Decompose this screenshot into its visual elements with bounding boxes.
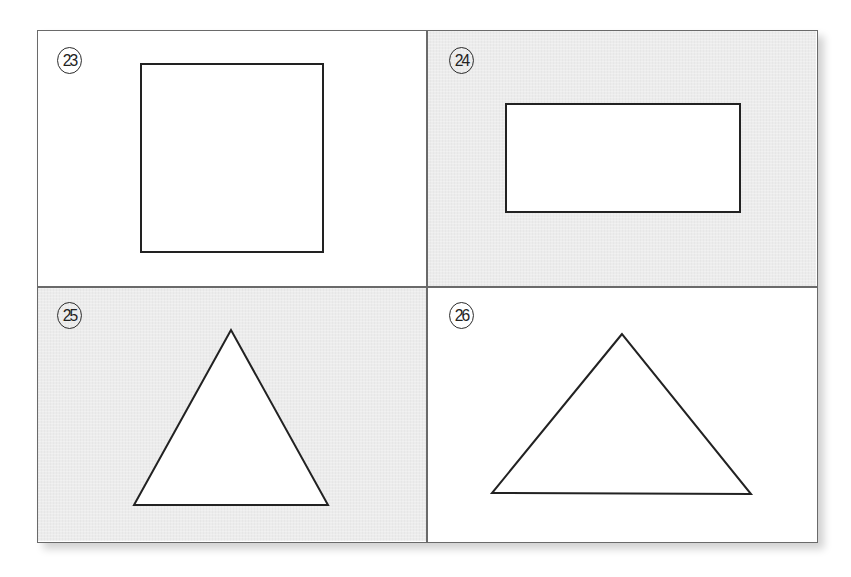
panel-25: [38, 287, 427, 541]
panel-24: [427, 31, 816, 287]
figure-frame: [37, 30, 818, 543]
panel-23: [38, 31, 427, 287]
horizontal-divider: [38, 286, 817, 288]
panel-label-25: 25: [57, 302, 82, 329]
panel-label-23: 23: [57, 47, 82, 74]
panel-label-26: 26: [449, 302, 474, 329]
panel-label-24: 24: [449, 47, 474, 74]
panel-26: [427, 287, 816, 541]
